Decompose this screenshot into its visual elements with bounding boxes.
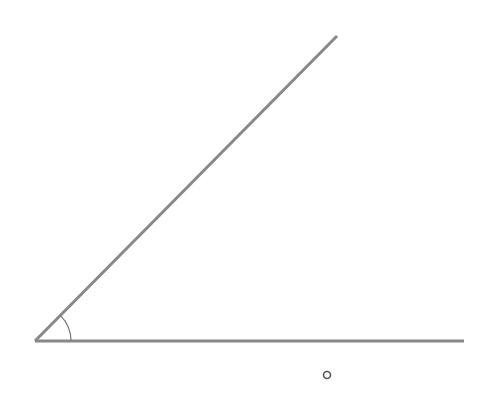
upper-ray <box>35 36 337 341</box>
degree-symbol <box>324 372 331 379</box>
angle-diagram <box>0 0 482 407</box>
angle-arc <box>60 315 71 341</box>
